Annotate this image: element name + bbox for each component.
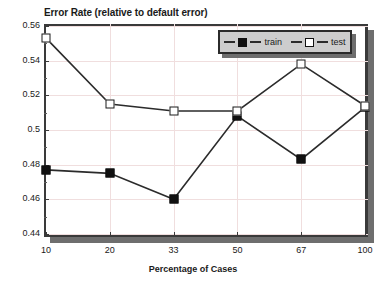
data-point-train-33[interactable] xyxy=(169,195,178,204)
legend-entry-test[interactable]: test xyxy=(291,37,346,47)
data-point-test-50[interactable] xyxy=(233,106,242,115)
y-axis-tick-label: 0.52 xyxy=(22,89,40,99)
legend-line-icon xyxy=(291,41,302,43)
x-axis-labels: 1020335067100 xyxy=(44,245,368,259)
data-point-test-100[interactable] xyxy=(361,101,370,110)
x-axis-tick-label: 10 xyxy=(41,245,51,255)
plot-frame-shadow-right xyxy=(368,30,374,242)
filled-square-icon xyxy=(238,38,247,47)
data-point-train-67[interactable] xyxy=(297,155,306,164)
legend-label-train: train xyxy=(264,37,282,47)
legend-entry-train[interactable]: train xyxy=(224,37,282,47)
x-axis-tick-label: 33 xyxy=(169,245,179,255)
data-point-test-33[interactable] xyxy=(169,106,178,115)
y-axis-tick-label: 0.5 xyxy=(27,124,40,134)
x-axis-tick-label: 67 xyxy=(296,245,306,255)
chart-title: Error Rate (relative to default error) xyxy=(44,7,207,18)
legend-line-icon xyxy=(317,41,328,43)
data-point-test-67[interactable] xyxy=(297,60,306,69)
y-axis-tick-label: 0.46 xyxy=(22,193,40,203)
y-axis-tick-label: 0.54 xyxy=(22,55,40,65)
legend-line-icon xyxy=(250,41,261,43)
data-point-train-20[interactable] xyxy=(105,169,114,178)
series-line-train xyxy=(46,107,365,199)
y-axis-tick-label: 0.44 xyxy=(22,228,40,238)
data-point-train-10[interactable] xyxy=(42,165,51,174)
open-square-icon xyxy=(305,38,314,47)
y-axis-tick-label: 0.48 xyxy=(22,159,40,169)
y-axis-tick-label: 0.56 xyxy=(22,20,40,30)
error-rate-line-chart: Error Rate (relative to default error) 0… xyxy=(0,0,386,288)
legend-line-icon xyxy=(224,41,235,43)
x-axis-tick-label: 100 xyxy=(357,245,372,255)
plot-frame-shadow-bottom xyxy=(50,237,374,243)
y-axis-labels: 0.440.460.480.50.520.540.56 xyxy=(0,24,40,237)
x-axis-title: Percentage of Cases xyxy=(0,264,386,274)
chart-legend: train test xyxy=(218,30,352,54)
legend-label-test: test xyxy=(331,37,346,47)
data-point-test-10[interactable] xyxy=(42,34,51,43)
data-point-test-20[interactable] xyxy=(105,100,114,109)
x-axis-tick-label: 20 xyxy=(105,245,115,255)
x-axis-tick-label: 50 xyxy=(232,245,242,255)
